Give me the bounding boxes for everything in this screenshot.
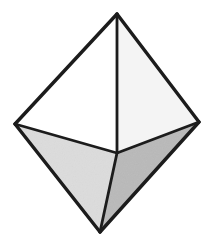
octahedron-drawing (0, 0, 210, 245)
octahedron-figure (0, 0, 210, 245)
